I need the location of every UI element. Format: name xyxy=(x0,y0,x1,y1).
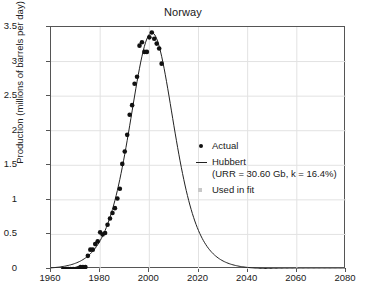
data-point xyxy=(103,231,108,236)
y-tick-label: 0.5 xyxy=(0,227,17,238)
data-point xyxy=(86,254,91,259)
x-tick-label: 2060 xyxy=(276,272,316,283)
data-point xyxy=(154,41,159,46)
data-point xyxy=(122,149,127,154)
hubbert-line-icon xyxy=(196,162,207,163)
data-point xyxy=(159,61,164,66)
data-point xyxy=(127,113,132,118)
data-point xyxy=(115,196,120,201)
y-tick-label: 3.5 xyxy=(0,20,17,31)
data-point xyxy=(147,35,152,40)
data-point xyxy=(157,46,162,51)
data-point xyxy=(108,216,113,221)
data-point xyxy=(132,81,137,86)
legend-item-used-in-fit: Used in fit xyxy=(196,184,337,197)
data-point xyxy=(152,36,157,41)
data-point xyxy=(135,74,140,79)
data-point xyxy=(125,133,130,138)
legend-item-actual: Actual xyxy=(196,140,337,153)
actual-data-points xyxy=(61,30,164,269)
actual-marker-icon xyxy=(199,144,203,148)
data-point xyxy=(95,239,100,244)
data-point xyxy=(113,206,118,211)
legend-item-hubbert: Hubbert (URR = 30.60 Gb, k = 16.4%) xyxy=(196,156,337,181)
data-point xyxy=(149,30,154,35)
y-tick-label: 2.5 xyxy=(0,89,17,100)
y-tick-label: 2 xyxy=(0,124,17,135)
x-tick-label: 2020 xyxy=(178,272,218,283)
chart-legend: Actual Hubbert (URR = 30.60 Gb, k = 16.4… xyxy=(196,140,337,199)
y-tick-label: 3 xyxy=(0,55,17,66)
data-point xyxy=(118,186,123,191)
y-tick-label: 1 xyxy=(0,193,17,204)
legend-label-used-in-fit: Used in fit xyxy=(212,184,254,195)
chart-title: Norway xyxy=(0,6,366,18)
y-tick-label: 1.5 xyxy=(0,158,17,169)
x-tick-label: 2080 xyxy=(325,272,365,283)
y-tick-label: 0 xyxy=(0,262,17,273)
data-point xyxy=(90,247,95,252)
x-tick-label: 2000 xyxy=(128,272,168,283)
data-point xyxy=(120,162,125,167)
data-point xyxy=(145,50,150,55)
data-point xyxy=(130,103,135,108)
chart-figure: Norway Production (millions of barrels p… xyxy=(0,0,366,297)
x-tick-label: 2040 xyxy=(227,272,267,283)
used-in-fit-marker-icon xyxy=(198,188,202,192)
legend-label-hubbert: Hubbert xyxy=(212,156,246,167)
x-tick-label: 1980 xyxy=(79,272,119,283)
x-tick-label: 1960 xyxy=(30,272,70,283)
data-point xyxy=(110,211,115,216)
legend-label-actual: Actual xyxy=(212,140,238,151)
data-point xyxy=(140,40,145,45)
data-point xyxy=(105,222,110,227)
legend-hubbert-params: (URR = 30.60 Gb, k = 16.4%) xyxy=(212,168,337,181)
